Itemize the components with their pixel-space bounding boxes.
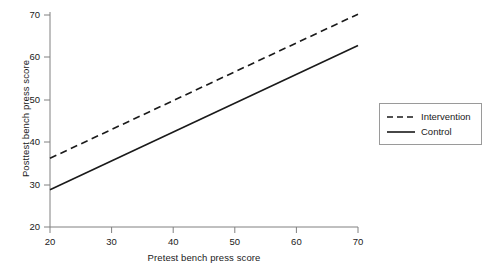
chart-figure: 70 60 50 40 30 20 20 30 40 50 60 70 Pret…: [0, 0, 492, 272]
x-tick-label: 60: [282, 236, 310, 247]
y-tick-label: 20: [14, 221, 40, 232]
legend-label-intervention: Intervention: [421, 112, 471, 122]
x-tick-label: 50: [221, 236, 249, 247]
series-line-intervention: [50, 14, 358, 158]
chart-legend: Intervention Control: [379, 103, 482, 145]
legend-label-control: Control: [421, 127, 452, 137]
y-axis-title: Posttest bench press score: [20, 19, 31, 219]
x-tick-label: 70: [344, 236, 372, 247]
x-tick-label: 20: [36, 236, 64, 247]
legend-item-intervention: Intervention: [386, 110, 471, 124]
x-tick-label: 30: [98, 236, 126, 247]
series-line-control: [50, 46, 358, 190]
x-axis-ticks: [50, 227, 358, 233]
legend-swatch-solid: [386, 127, 416, 137]
x-tick-label: 40: [159, 236, 187, 247]
x-axis-title: Pretest bench press score: [0, 252, 408, 263]
legend-item-control: Control: [386, 125, 452, 139]
legend-swatch-dashed: [386, 112, 416, 122]
y-axis-ticks: [44, 15, 50, 227]
